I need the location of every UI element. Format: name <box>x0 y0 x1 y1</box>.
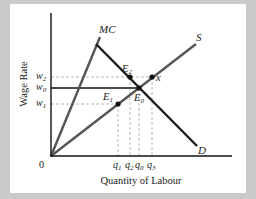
mc-label: MC <box>98 23 116 35</box>
point-e1 <box>115 101 120 106</box>
point-x <box>149 74 154 79</box>
e1-label: E1 <box>102 91 113 104</box>
y-axis-title: Wage Rate <box>18 61 29 107</box>
q2-label: q2 <box>125 159 134 172</box>
q3-label: q3 <box>147 159 156 172</box>
q0-label: q0 <box>135 159 144 172</box>
supply-curve <box>51 44 196 156</box>
origin-label: 0 <box>39 159 44 170</box>
x-axis-title: Quantity of Labour <box>100 175 182 186</box>
x-label: x <box>155 72 161 83</box>
w1-label: w1 <box>36 97 46 110</box>
s-label: S <box>196 31 202 43</box>
q1-label: q1 <box>113 159 122 172</box>
d-label: D <box>197 144 206 156</box>
labour-market-diagram: MC S D E2 x E0 E1 w2 w0 w1 q1 q2 q0 q3 0… <box>0 0 256 199</box>
point-e0 <box>136 85 141 90</box>
demand-curve <box>96 44 197 146</box>
